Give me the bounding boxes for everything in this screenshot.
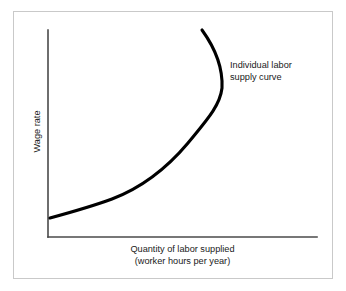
y-axis-label: Wage rate — [32, 92, 43, 172]
labor-supply-curve-path — [50, 30, 222, 218]
curve-annotation-label: Individual labor supply curve — [230, 60, 292, 83]
figure-root: Wage rate Quantity of labor supplied (wo… — [0, 0, 346, 291]
x-axis-label: Quantity of labor supplied (worker hours… — [48, 244, 317, 267]
